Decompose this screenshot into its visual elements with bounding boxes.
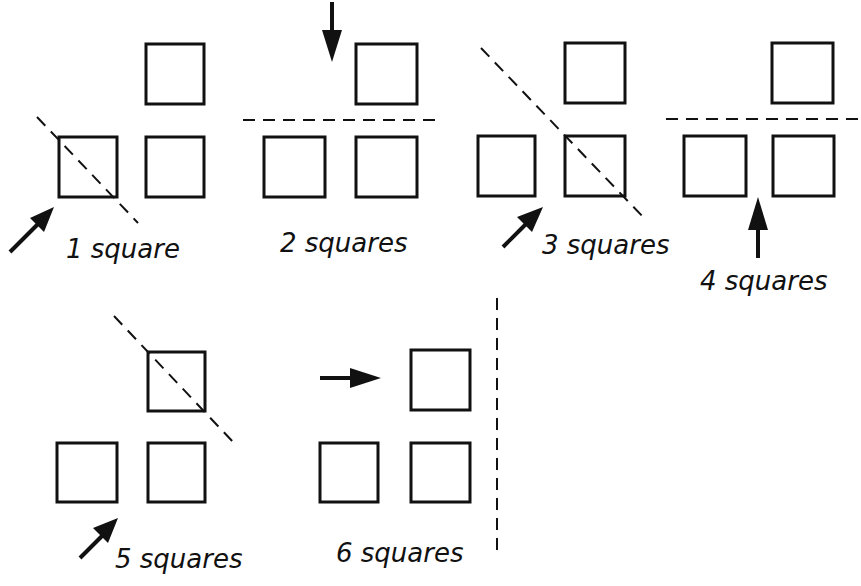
panel-label: 1 square xyxy=(66,234,180,264)
square-bottom-left xyxy=(478,136,535,196)
panel-1: 1 square xyxy=(10,44,204,264)
panel-label: 5 squares xyxy=(115,544,243,574)
arrow-icon xyxy=(320,368,381,388)
square-bottom-right xyxy=(356,137,417,197)
panel-label: 2 squares xyxy=(280,228,408,258)
panel-3: 3 squares xyxy=(478,43,670,260)
square-bottom-right xyxy=(148,443,205,502)
square-bottom-left xyxy=(684,136,746,196)
arrow-icon xyxy=(322,2,342,62)
panel-6: 6 squares xyxy=(320,298,497,568)
panel-5: 5 squares xyxy=(57,316,243,574)
panel-label: 3 squares xyxy=(542,230,670,260)
square-top xyxy=(356,44,417,104)
square-top xyxy=(146,44,204,104)
square-bottom-right xyxy=(773,136,834,196)
square-top xyxy=(411,350,470,410)
panel-label: 6 squares xyxy=(336,538,464,568)
arrow-icon xyxy=(503,207,543,247)
cut-line xyxy=(37,117,138,223)
square-bottom-right xyxy=(411,443,470,502)
squares-cutting-diagram: 1 square 2 squares 3 squares xyxy=(0,0,861,586)
cut-line xyxy=(114,316,234,443)
square-bottom-left xyxy=(57,443,117,502)
square-bottom-left xyxy=(59,137,117,197)
panel-label: 4 squares xyxy=(700,266,828,296)
square-bottom-left xyxy=(320,443,378,502)
arrow-icon xyxy=(10,207,54,252)
arrow-icon xyxy=(748,197,768,258)
square-bottom-left xyxy=(264,137,325,197)
square-bottom-right xyxy=(146,137,204,197)
square-top xyxy=(565,43,625,103)
arrow-icon xyxy=(80,518,118,558)
square-top xyxy=(772,43,833,103)
panel-2: 2 squares xyxy=(243,2,443,258)
panel-4: 4 squares xyxy=(666,43,858,296)
